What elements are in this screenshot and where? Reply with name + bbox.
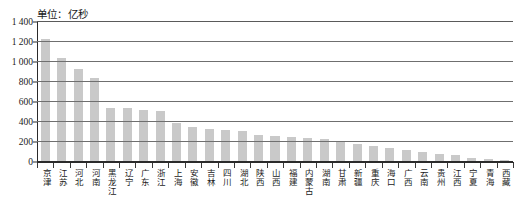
gridline: [37, 81, 513, 82]
gridline: [37, 41, 513, 42]
bar: [254, 135, 263, 163]
gridline: [37, 141, 513, 142]
x-tick-mark: [250, 163, 251, 168]
x-tick-mark: [86, 163, 87, 168]
x-tick-label: 青海: [484, 169, 493, 187]
bar: [172, 123, 181, 163]
x-tick-mark: [431, 163, 432, 168]
plot-area: [37, 22, 513, 162]
x-tick-mark: [497, 163, 498, 168]
x-tick-mark: [168, 163, 169, 168]
bar: [369, 146, 378, 162]
x-tick-label: 海口: [385, 169, 394, 187]
x-tick-label: 浙江: [156, 169, 165, 187]
x-tick-label: 山西: [271, 169, 280, 187]
x-tick-mark: [53, 163, 54, 168]
x-tick-label: 上海: [172, 169, 181, 187]
x-tick-mark: [37, 163, 38, 168]
x-tick-label: 重庆: [369, 169, 378, 187]
bar-chart: 单位：亿秒 02004006008001 0001 2001 400 京津江苏河…: [0, 0, 517, 217]
gridline: [37, 61, 513, 62]
x-tick-label: 湖南: [320, 169, 329, 187]
x-tick-label: 四川: [221, 169, 230, 187]
bar: [74, 69, 83, 162]
x-tick-mark: [300, 163, 301, 168]
gridline: [37, 101, 513, 102]
bar: [270, 136, 279, 163]
x-tick-label: 黑龙江: [106, 169, 115, 196]
x-tick-label: 湖北: [238, 169, 247, 187]
x-tick-label: 广东: [139, 169, 148, 187]
x-tick-mark: [185, 163, 186, 168]
x-tick-label: 西藏: [500, 169, 509, 187]
bar: [205, 129, 214, 163]
bar: [385, 148, 394, 162]
bar: [221, 130, 230, 163]
x-tick-mark: [135, 163, 136, 168]
x-tick-mark: [415, 163, 416, 168]
x-tick-label: 甘肃: [336, 169, 345, 187]
x-tick-label: 新疆: [353, 169, 362, 187]
y-axis-tick-marks: [0, 22, 37, 162]
x-tick-mark: [480, 163, 481, 168]
x-tick-label: 宁夏: [468, 169, 477, 187]
x-tick-mark: [382, 163, 383, 168]
x-tick-label: 吉林: [205, 169, 214, 187]
bar: [353, 144, 362, 162]
bar: [90, 78, 99, 162]
x-tick-mark: [349, 163, 350, 168]
bar: [106, 108, 115, 163]
x-tick-mark: [119, 163, 120, 168]
gridline: [37, 161, 513, 162]
bar: [336, 141, 345, 163]
bar: [57, 58, 66, 163]
x-tick-label: 云南: [418, 169, 427, 187]
x-tick-label: 广西: [402, 169, 411, 187]
x-tick-label: 内蒙古: [303, 169, 312, 196]
gridline: [37, 121, 513, 122]
x-tick-mark: [234, 163, 235, 168]
x-tick-mark: [218, 163, 219, 168]
x-tick-label: 福建: [287, 169, 296, 187]
x-tick-label: 安徽: [189, 169, 198, 187]
x-tick-mark: [464, 163, 465, 168]
x-tick-label: 贵州: [435, 169, 444, 187]
chart-unit-title: 单位：亿秒: [37, 6, 88, 21]
x-tick-label: 江苏: [57, 169, 66, 187]
x-tick-mark: [332, 163, 333, 168]
bar: [238, 131, 247, 162]
bar: [320, 139, 329, 163]
x-tick-mark: [283, 163, 284, 168]
x-axis-tick-marks: [37, 163, 513, 168]
x-tick-label: 江西: [451, 169, 460, 187]
bar: [156, 111, 165, 162]
x-tick-mark: [365, 163, 366, 168]
x-tick-label: 辽宁: [123, 169, 132, 187]
x-tick-mark: [513, 163, 514, 168]
x-tick-mark: [267, 163, 268, 168]
x-tick-label: 河南: [90, 169, 99, 187]
bar: [139, 110, 148, 163]
bar: [123, 108, 132, 162]
x-tick-mark: [201, 163, 202, 168]
x-tick-mark: [70, 163, 71, 168]
gridline: [37, 21, 513, 22]
x-tick-label: 陕西: [254, 169, 263, 187]
x-tick-mark: [398, 163, 399, 168]
x-tick-label: 京津: [41, 169, 50, 187]
x-tick-mark: [103, 163, 104, 168]
x-tick-mark: [316, 163, 317, 168]
x-tick-label: 河北: [74, 169, 83, 187]
x-axis-tick-labels: 京津江苏河北河南黑龙江辽宁广东浙江上海安徽吉林四川湖北陕西山西福建内蒙古湖南甘肃…: [37, 169, 513, 217]
x-tick-mark: [152, 163, 153, 168]
x-tick-mark: [447, 163, 448, 168]
bar: [188, 127, 197, 163]
